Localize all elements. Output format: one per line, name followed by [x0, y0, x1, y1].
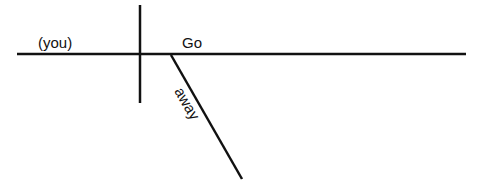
diagram-lines [0, 0, 483, 186]
modifier-line [171, 55, 242, 179]
subject-word: (you) [38, 34, 72, 51]
verb-word: Go [182, 34, 202, 51]
